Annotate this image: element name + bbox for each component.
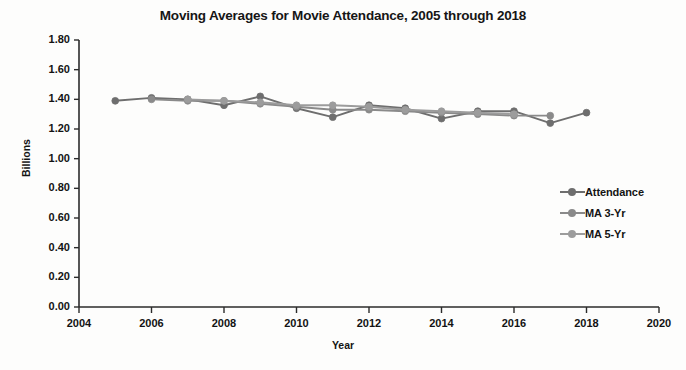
- legend-item-label: Attendance: [585, 186, 644, 198]
- data-point: [184, 96, 191, 103]
- data-point: [329, 114, 336, 121]
- data-point: [583, 109, 590, 116]
- data-point: [511, 111, 518, 118]
- y-axis-tick-label: 1.60: [22, 63, 70, 75]
- data-point: [438, 108, 445, 115]
- y-axis-tick-label: 1.00: [22, 152, 70, 164]
- data-point: [112, 97, 119, 104]
- y-axis-tick-label: 0.40: [22, 241, 70, 253]
- data-point: [329, 102, 336, 109]
- data-point: [148, 96, 155, 103]
- x-axis-tick-label: 2016: [488, 317, 540, 329]
- x-axis-tick-label: 2020: [633, 317, 685, 329]
- legend-item[interactable]: MA 3-Yr: [560, 202, 686, 223]
- legend-marker-icon: [560, 207, 585, 219]
- data-point: [402, 106, 409, 113]
- legend-item-label: MA 3-Yr: [585, 207, 625, 219]
- chart-legend: AttendanceMA 3-YrMA 5-Yr: [560, 181, 686, 244]
- data-point: [474, 109, 481, 116]
- legend-item-label: MA 5-Yr: [585, 228, 625, 240]
- legend-item[interactable]: MA 5-Yr: [560, 223, 686, 244]
- x-axis-tick-label: 2014: [416, 317, 468, 329]
- x-axis-tick-label: 2004: [53, 317, 105, 329]
- x-axis-tick-label: 2012: [343, 317, 395, 329]
- data-point: [366, 103, 373, 110]
- chart-container: Moving Averages for Movie Attendance, 20…: [0, 0, 686, 370]
- data-point: [547, 120, 554, 127]
- data-point: [547, 112, 554, 119]
- y-axis-tick-label: 0.60: [22, 211, 70, 223]
- y-axis-tick-label: 0.80: [22, 181, 70, 193]
- data-point: [293, 102, 300, 109]
- data-point: [221, 97, 228, 104]
- y-axis-tick-label: 1.20: [22, 122, 70, 134]
- legend-marker-icon: [560, 228, 585, 240]
- x-axis-tick-label: 2018: [561, 317, 613, 329]
- x-axis-tick-label: 2006: [126, 317, 178, 329]
- y-axis-tick-label: 0.20: [22, 270, 70, 282]
- data-point: [257, 99, 264, 106]
- y-axis-tick-label: 1.40: [22, 92, 70, 104]
- x-axis-tick-label: 2010: [271, 317, 323, 329]
- legend-item[interactable]: Attendance: [560, 181, 686, 202]
- legend-marker-icon: [560, 186, 585, 198]
- y-axis-tick-label: 0.00: [22, 300, 70, 312]
- y-axis-tick-label: 1.80: [22, 33, 70, 45]
- x-axis-tick-label: 2008: [198, 317, 250, 329]
